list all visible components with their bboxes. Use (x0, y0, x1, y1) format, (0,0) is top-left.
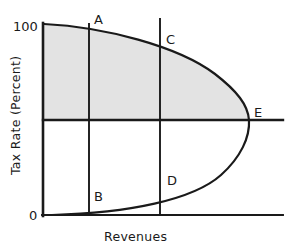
laffer-curve-chart: 100 0 A B C D E Tax Rate (Percent) Reven… (0, 0, 289, 252)
shaded-region (44, 25, 249, 120)
point-label-d: D (167, 173, 177, 188)
point-label-b: B (94, 189, 103, 204)
y-tick-label-0: 0 (29, 208, 37, 223)
laffer-curve-figure: 100 0 A B C D E Tax Rate (Percent) Reven… (0, 0, 289, 252)
y-axis-title: Tax Rate (Percent) (8, 56, 23, 176)
point-label-c: C (166, 32, 175, 47)
y-tick-label-100: 100 (13, 19, 38, 34)
x-axis-title: Revenues (104, 229, 167, 244)
point-label-a: A (94, 12, 103, 27)
point-label-e: E (254, 105, 262, 120)
